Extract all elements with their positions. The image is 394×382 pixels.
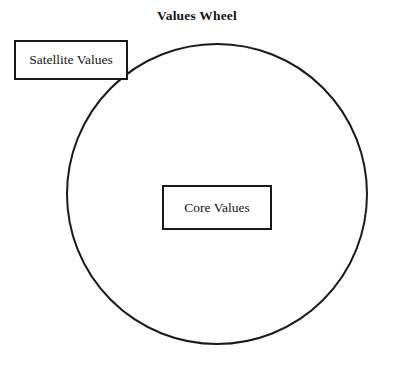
node-satellite-values[interactable]: Satellite Values [14, 40, 128, 80]
node-core-values-label: Core Values [184, 201, 249, 215]
node-satellite-values-label: Satellite Values [29, 53, 112, 67]
values-wheel-diagram: Values Wheel Satellite Values Core Value… [0, 0, 394, 382]
node-core-values[interactable]: Core Values [162, 185, 272, 230]
